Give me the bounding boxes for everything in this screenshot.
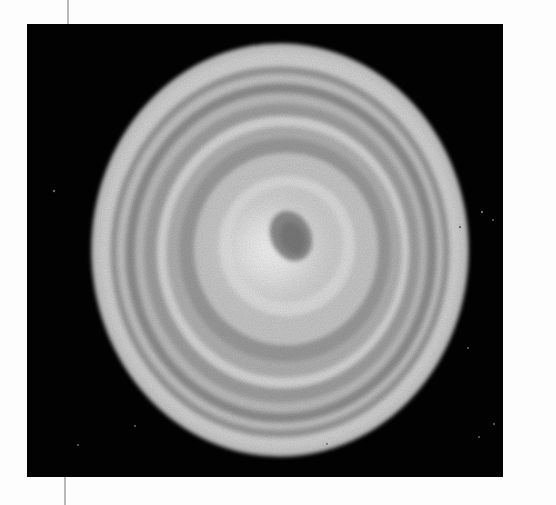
margin-rule	[64, 477, 66, 505]
cut-off-text-fragment: · · ·	[150, 0, 530, 3]
margin-rule	[67, 0, 69, 24]
document-page: · · ·	[0, 0, 556, 505]
colony-image	[27, 24, 503, 477]
colony-photograph	[27, 24, 503, 477]
